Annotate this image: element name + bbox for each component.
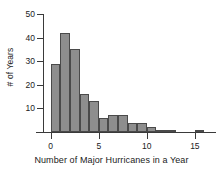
histogram-bar <box>166 130 176 132</box>
x-axis-tick-label: 5 <box>87 141 111 151</box>
y-axis-tick <box>37 108 43 109</box>
y-axis-tick-label: 10 <box>1 103 35 113</box>
x-axis-tick <box>99 133 100 139</box>
y-axis-tick-label: 40 <box>1 33 35 43</box>
x-axis-tick <box>195 133 196 139</box>
histogram-bar <box>99 118 109 132</box>
y-axis-label-container: # of Years <box>0 0 16 140</box>
histogram-bar <box>195 130 205 132</box>
x-axis-tick-label: 15 <box>183 141 207 151</box>
histogram-bar <box>147 127 157 132</box>
y-axis-tick-label: 50 <box>1 9 35 19</box>
histogram-bar <box>80 94 90 132</box>
plot-area <box>44 14 216 132</box>
histogram-bar <box>51 64 61 132</box>
y-axis-tick <box>37 85 43 86</box>
histogram-bar <box>108 115 118 132</box>
histogram-bar <box>89 101 99 132</box>
x-axis-tick-label: 0 <box>39 141 63 151</box>
x-axis-label: Number of Major Hurricanes in a Year <box>0 155 223 165</box>
y-axis-tick-label: 30 <box>1 56 35 66</box>
x-axis-tick-label: 10 <box>135 141 159 151</box>
histogram-bar <box>156 130 166 132</box>
y-axis-tick <box>37 38 43 39</box>
x-axis-tick <box>51 133 52 139</box>
histogram-bar <box>128 123 138 132</box>
histogram-bar <box>60 33 70 132</box>
histogram-figure: # of Years 1020304050 051015 Number of M… <box>0 0 223 179</box>
histogram-bar <box>137 123 147 132</box>
x-axis-line <box>36 132 216 133</box>
y-axis-tick-label: 20 <box>1 80 35 90</box>
y-axis-tick <box>37 61 43 62</box>
y-axis-tick <box>37 14 43 15</box>
histogram-bar <box>118 115 128 132</box>
histogram-bar <box>70 49 80 132</box>
x-axis-tick <box>147 133 148 139</box>
